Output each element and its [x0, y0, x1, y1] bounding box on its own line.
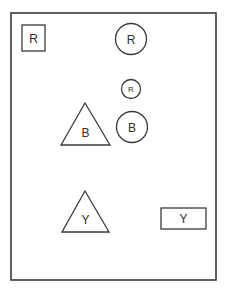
shape-triangle-y[interactable]: Y: [62, 191, 109, 232]
shape-circle-b[interactable]: B: [117, 112, 148, 143]
shape-triangle-b[interactable]: B: [61, 103, 110, 145]
triangle-y-label: Y: [81, 213, 89, 227]
shape-canvas: R R R B B Y Y: [0, 0, 225, 293]
circle-b-label: B: [128, 121, 136, 135]
rect-y-label: Y: [179, 212, 187, 226]
shape-diagram: R R R B B Y Y: [0, 0, 225, 293]
shape-circle-r-large[interactable]: R: [116, 24, 147, 55]
circle-r-large-label: R: [127, 33, 136, 47]
square-r-label: R: [29, 32, 38, 46]
triangle-b-label: B: [81, 126, 89, 140]
outer-frame: [11, 13, 216, 280]
circle-r-small-label: R: [128, 85, 134, 94]
shape-square-r[interactable]: R: [22, 25, 45, 51]
shape-rect-y[interactable]: Y: [161, 208, 206, 229]
shape-circle-r-small[interactable]: R: [122, 80, 141, 99]
